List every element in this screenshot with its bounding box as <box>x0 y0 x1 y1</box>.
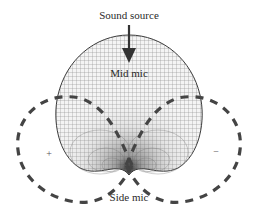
mid-mic-label: Mid mic <box>110 68 148 79</box>
plus-sign: + <box>46 149 52 159</box>
side-mic-label: Side mic <box>110 192 149 203</box>
ms-diagram <box>0 0 258 214</box>
minus-sign: − <box>213 147 219 157</box>
sound-source-label: Sound source <box>99 10 159 21</box>
